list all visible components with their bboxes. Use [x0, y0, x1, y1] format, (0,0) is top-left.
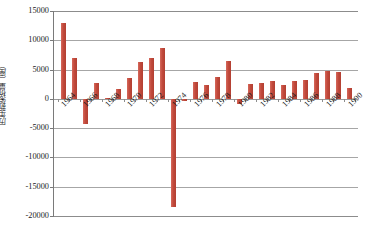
y-axis-tick-label: 5000 — [32, 66, 49, 74]
y-axis-tick-label: 10000 — [28, 36, 49, 44]
y-axis-tick-label: -5000 — [30, 124, 49, 132]
x-axis-tick-label: 1982 — [259, 91, 276, 108]
bar-chart: 历年新架桥量（座） 150001000050000-5000-10000-150… — [0, 0, 368, 235]
x-axis-tick-label: 1986 — [303, 91, 320, 108]
y-axis-tick-label: -20000 — [25, 212, 49, 220]
x-axis-tick-label: 1984 — [281, 91, 298, 108]
y-axis-tick-label: 15000 — [28, 7, 49, 15]
x-axis-tick-label: 1990 — [347, 91, 364, 108]
x-axis-tick-labels: 1964196619681970197219741976197819801982… — [53, 0, 368, 235]
y-axis-tick-label: -10000 — [25, 153, 49, 161]
x-axis-tick-label: 1974 — [171, 91, 188, 108]
x-axis-tick-label: 1964 — [60, 91, 77, 108]
x-axis-tick-label: 1972 — [148, 91, 165, 108]
x-axis-tick-label: 1978 — [215, 91, 232, 108]
x-axis-tick-label: 1970 — [126, 91, 143, 108]
x-axis-tick-label: 1966 — [82, 91, 99, 108]
y-axis-tick-labels: 150001000050000-5000-10000-15000-20000 — [0, 0, 52, 235]
y-axis-tick-label: -15000 — [25, 183, 49, 191]
x-axis-tick-label: 1988 — [325, 91, 342, 108]
x-axis-tick-label: 1976 — [193, 91, 210, 108]
y-axis-tick-label: 0 — [45, 95, 49, 103]
x-axis-tick-label: 1968 — [104, 91, 121, 108]
x-axis-tick-label: 1980 — [237, 91, 254, 108]
